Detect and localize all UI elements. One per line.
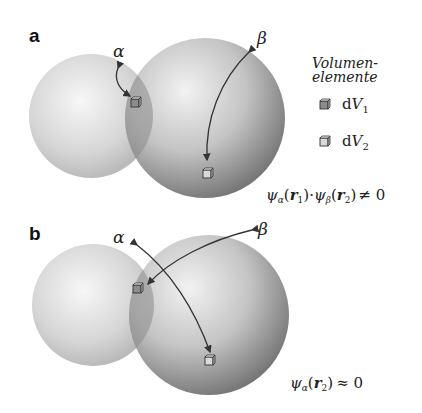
beta-label: β: [257, 219, 268, 239]
panel-label-a: a: [29, 25, 40, 46]
panel-b: b α β ψα(r2)≈ 0: [29, 219, 363, 395]
legend-cube-dv1: [320, 99, 330, 109]
volume-element-dv2-cube: [203, 168, 213, 178]
alpha-label: α: [113, 41, 125, 61]
volume-element-dv2-cube: [205, 355, 215, 365]
legend: Volumen- elemente dV1 dV2: [312, 55, 378, 152]
legend-cube-dv2: [320, 136, 330, 146]
legend-item-dv2: dV2: [342, 132, 369, 152]
volume-element-dv1-cube: [133, 283, 143, 293]
formula-b: ψα(r2)≈ 0: [290, 374, 363, 393]
panel-label-b: b: [29, 223, 41, 244]
panel-a: a α β Volumen- elemente dV1 dV2 ψα(r1)·ψ…: [29, 25, 385, 205]
beta-label: β: [256, 28, 267, 48]
legend-title-line2: elemente: [312, 69, 378, 85]
formula-a: ψα(r1)·ψβ(r2)≠ 0: [266, 186, 385, 205]
legend-item-dv1: dV1: [342, 95, 369, 115]
alpha-label: α: [113, 227, 125, 247]
orbital-overlap-diagram: a α β Volumen- elemente dV1 dV2 ψα(r1)·ψ…: [0, 0, 422, 413]
volume-element-dv1-cube: [131, 97, 141, 107]
